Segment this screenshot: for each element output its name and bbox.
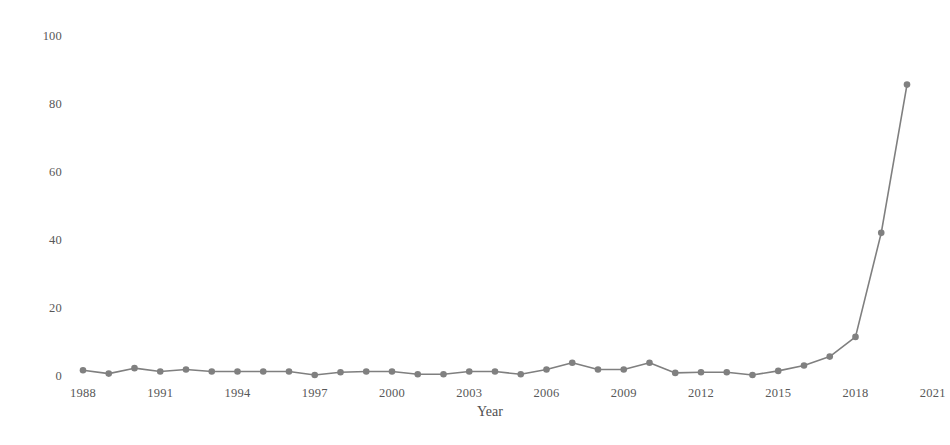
y-tick-label: 80: [10, 97, 62, 112]
data-point: [466, 368, 473, 375]
x-tick-label: 2006: [517, 386, 577, 401]
data-point: [543, 366, 550, 373]
data-point: [749, 372, 756, 379]
x-tick-label: 2003: [439, 386, 499, 401]
data-point: [569, 359, 576, 366]
data-point: [183, 366, 190, 373]
data-point: [517, 371, 524, 378]
y-tick-label: 0: [10, 369, 62, 384]
data-point: [389, 368, 396, 375]
data-point: [595, 366, 602, 373]
x-tick-label: 2015: [748, 386, 808, 401]
y-tick-label: 60: [10, 165, 62, 180]
data-point: [492, 368, 499, 375]
data-point: [105, 370, 112, 377]
data-point: [286, 368, 293, 375]
data-point: [723, 369, 730, 376]
x-tick-label: 1994: [208, 386, 268, 401]
data-point: [260, 368, 267, 375]
x-tick-label: 2000: [362, 386, 422, 401]
x-tick-label: 1997: [285, 386, 345, 401]
data-point: [672, 370, 679, 377]
data-point: [311, 372, 318, 379]
x-tick-label: 1988: [53, 386, 113, 401]
x-axis-title: Year: [430, 404, 550, 420]
data-point: [904, 81, 911, 88]
data-line: [83, 85, 907, 375]
data-point: [363, 368, 370, 375]
data-point-markers: [80, 81, 911, 378]
y-tick-label: 40: [10, 233, 62, 248]
data-point: [852, 334, 859, 341]
y-tick-label: 100: [10, 29, 62, 44]
data-point: [698, 369, 705, 376]
x-tick-label: 1991: [130, 386, 190, 401]
data-point: [826, 353, 833, 360]
x-tick-label: 2018: [826, 386, 886, 401]
x-tick-label: 2009: [594, 386, 654, 401]
data-point: [80, 367, 87, 374]
y-tick-label: 20: [10, 301, 62, 316]
data-point: [878, 230, 885, 237]
data-point: [646, 359, 653, 366]
data-point: [208, 368, 215, 375]
x-tick-label: 2021: [903, 386, 950, 401]
data-point: [157, 368, 164, 375]
data-point: [131, 365, 138, 372]
data-point: [775, 368, 782, 375]
data-point: [801, 362, 808, 369]
data-point: [234, 368, 241, 375]
data-point: [337, 369, 344, 376]
data-point: [440, 371, 447, 378]
x-tick-label: 2012: [671, 386, 731, 401]
data-point: [414, 371, 421, 378]
data-point: [620, 366, 627, 373]
